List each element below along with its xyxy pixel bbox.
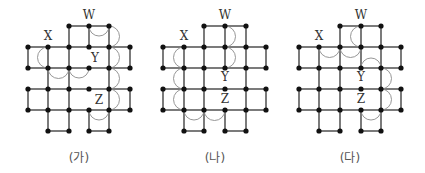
grid-node bbox=[222, 107, 227, 112]
grid-node bbox=[106, 44, 111, 49]
semicircle-arc bbox=[381, 89, 392, 110]
figure-da: WXYZ bbox=[296, 8, 403, 134]
grid-node bbox=[358, 128, 363, 133]
grid-node bbox=[86, 86, 91, 91]
grid-node bbox=[201, 128, 206, 133]
grid-node bbox=[263, 107, 268, 112]
grid-node bbox=[358, 86, 363, 91]
grid-node bbox=[243, 44, 248, 49]
semicircle-arc bbox=[109, 68, 120, 89]
grid-node bbox=[358, 23, 363, 28]
grid-node bbox=[201, 107, 206, 112]
grid-node bbox=[106, 128, 111, 133]
grid-node bbox=[127, 86, 132, 91]
node-label-y: Y bbox=[90, 51, 100, 65]
grid-node bbox=[337, 44, 342, 49]
grid-node bbox=[222, 128, 227, 133]
grid-node bbox=[296, 86, 301, 91]
semicircle-arc bbox=[361, 110, 381, 120]
grid-node bbox=[243, 86, 248, 91]
caption-ga: (가) bbox=[49, 148, 109, 165]
grid-node bbox=[45, 128, 50, 133]
semicircle-arc bbox=[174, 68, 185, 89]
grid-node bbox=[106, 23, 111, 28]
grid-node bbox=[201, 65, 206, 70]
grid-node bbox=[181, 107, 186, 112]
semicircle-arc bbox=[89, 26, 109, 36]
caption-da: (다) bbox=[320, 148, 380, 165]
grid-node bbox=[45, 44, 50, 49]
grid-node bbox=[263, 86, 268, 91]
semicircle-arc bbox=[174, 47, 185, 68]
grid-node bbox=[398, 86, 403, 91]
node-label-z: Z bbox=[221, 92, 229, 106]
grid-node bbox=[25, 65, 30, 70]
grid-node bbox=[337, 23, 342, 28]
grid-node bbox=[45, 65, 50, 70]
grid-node bbox=[296, 65, 301, 70]
semicircle-arc bbox=[225, 26, 236, 47]
node-label-x: X bbox=[315, 29, 324, 43]
node-label-w: W bbox=[83, 8, 96, 22]
grid-node bbox=[66, 107, 71, 112]
grid-node bbox=[181, 65, 186, 70]
semicircle-arc bbox=[109, 26, 120, 47]
grid-node bbox=[378, 65, 383, 70]
grid-node bbox=[222, 23, 227, 28]
grid-node bbox=[45, 107, 50, 112]
grid-node bbox=[86, 44, 91, 49]
grid-node bbox=[45, 86, 50, 91]
grid-node bbox=[66, 86, 71, 91]
grid-node bbox=[201, 86, 206, 91]
grid-node bbox=[160, 86, 165, 91]
grid-node bbox=[398, 44, 403, 49]
semicircle-arc bbox=[109, 89, 120, 110]
grid-node bbox=[201, 44, 206, 49]
figure-ga: WXYZ bbox=[25, 8, 132, 134]
semicircle-arc bbox=[109, 47, 120, 68]
grid-node bbox=[86, 107, 91, 112]
semicircle-arc bbox=[340, 47, 361, 58]
grid-node bbox=[106, 65, 111, 70]
grid-node bbox=[181, 86, 186, 91]
grid-node bbox=[243, 107, 248, 112]
grid-node bbox=[222, 86, 227, 91]
grid-node bbox=[181, 44, 186, 49]
grid-node bbox=[86, 23, 91, 28]
grid-node bbox=[160, 65, 165, 70]
grid-node bbox=[378, 86, 383, 91]
grid-node bbox=[243, 23, 248, 28]
grid-node bbox=[398, 107, 403, 112]
semicircle-arc bbox=[69, 68, 89, 78]
grid-node bbox=[222, 44, 227, 49]
semicircle-arc bbox=[351, 26, 361, 47]
grid-node bbox=[160, 44, 165, 49]
grid-node bbox=[66, 128, 71, 133]
grid-node bbox=[25, 44, 30, 49]
grid-node bbox=[25, 86, 30, 91]
semicircle-arc bbox=[38, 47, 48, 68]
grid-node bbox=[316, 44, 321, 49]
grid-node bbox=[378, 107, 383, 112]
semicircle-arc bbox=[89, 110, 109, 120]
node-label-w: W bbox=[355, 8, 368, 22]
semicircle-arc bbox=[174, 89, 185, 110]
grid-node bbox=[86, 128, 91, 133]
grid-node bbox=[127, 65, 132, 70]
grid-node bbox=[263, 65, 268, 70]
grid-node bbox=[316, 107, 321, 112]
grid-node bbox=[106, 86, 111, 91]
grid-node bbox=[296, 107, 301, 112]
grid-node bbox=[127, 107, 132, 112]
grid-node bbox=[358, 107, 363, 112]
grid-node bbox=[66, 65, 71, 70]
node-label-x: X bbox=[44, 29, 53, 43]
grid-node bbox=[25, 107, 30, 112]
grid-node bbox=[296, 44, 301, 49]
semicircle-arc bbox=[381, 68, 392, 89]
grid-node bbox=[106, 107, 111, 112]
grid-node bbox=[358, 44, 363, 49]
figure-na: WXYZ bbox=[160, 8, 268, 134]
node-label-y: Y bbox=[220, 70, 230, 84]
semicircle-arc bbox=[319, 47, 340, 58]
